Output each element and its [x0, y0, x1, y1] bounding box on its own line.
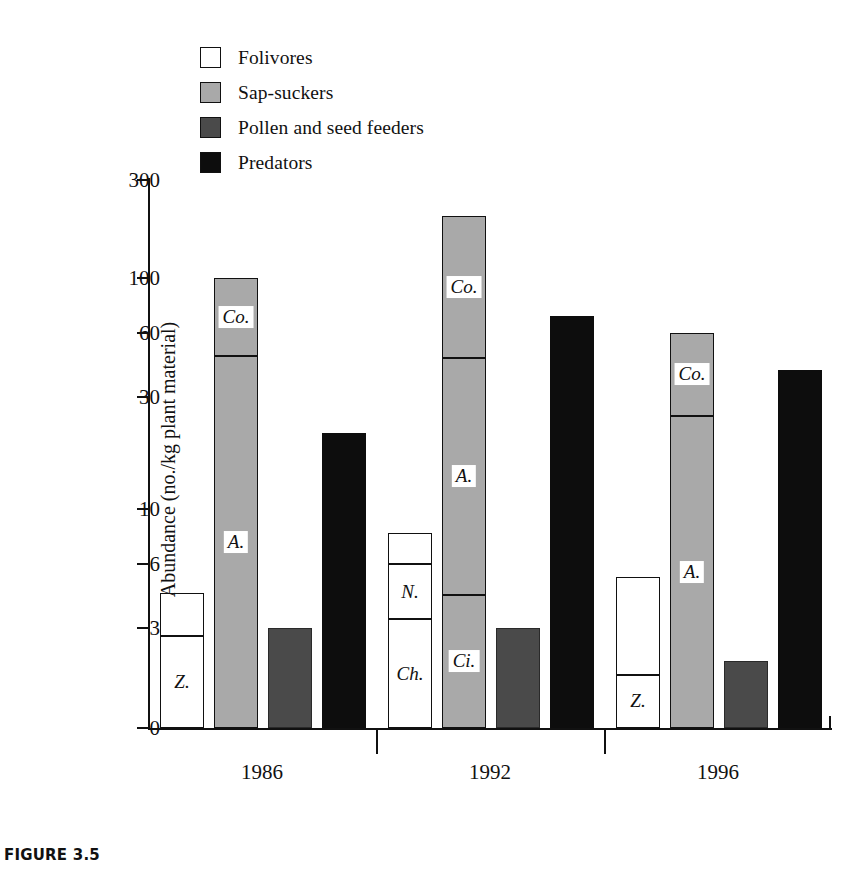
legend-swatch-sap-suckers	[200, 82, 221, 103]
y-tick-label-100: 100	[90, 266, 160, 291]
y-tick-label-60: 60	[90, 321, 160, 346]
bar-segment-label-a: A.	[224, 531, 248, 553]
y-axis-title: Abundance (no./kg plant material)	[157, 140, 180, 780]
legend-swatch-predators	[200, 152, 221, 173]
bar-segment-1996-pollen-seed-feeders-0	[724, 661, 768, 728]
bar-segment-label-ci: Ci.	[449, 650, 480, 672]
bar-1986-sap-suckers: A.Co.	[214, 178, 258, 728]
bar-segment-label-co: Co.	[675, 363, 710, 385]
bar-segment-1992-sap-suckers-1: A.	[442, 358, 486, 595]
bar-segment-label-co: Co.	[219, 306, 254, 328]
bar-1992-predators	[550, 178, 594, 728]
y-tick-label-6: 6	[90, 552, 160, 577]
legend-swatch-folivores	[200, 47, 221, 68]
bar-segment-1986-sap-suckers-0: A.	[214, 356, 258, 728]
y-tick-label-30: 30	[90, 385, 160, 410]
legend-swatch-pollen-seed-feeders	[200, 117, 221, 138]
x-axis-group-label-1986: 1986	[241, 760, 283, 785]
bar-1996-pollen-seed-feeders	[724, 178, 768, 728]
bar-segment-label-ch: Ch.	[393, 663, 428, 685]
y-tick-label-0: 0	[90, 716, 160, 741]
bar-segment-1986-sap-suckers-1: Co.	[214, 278, 258, 356]
bar-1986-predators	[322, 178, 366, 728]
bar-segment-label-a: A.	[452, 465, 476, 487]
bar-segment-1992-folivores-2	[388, 533, 432, 564]
bar-segment-1986-predators-0	[322, 433, 366, 728]
bar-1996-sap-suckers: A.Co.	[670, 178, 714, 728]
bar-1992-folivores: Ch.N.	[388, 178, 432, 728]
bar-segment-1992-sap-suckers-0: Ci.	[442, 595, 486, 728]
bar-1992-sap-suckers: Ci.A.Co.	[442, 178, 486, 728]
bar-segment-label-co: Co.	[447, 276, 482, 298]
bar-segment-1992-pollen-seed-feeders-0	[496, 628, 540, 728]
x-axis-group-label-1996: 1996	[697, 760, 739, 785]
figure-3-5: Folivores Sap-suckers Pollen and seed fe…	[0, 0, 868, 880]
bar-1992-pollen-seed-feeders	[496, 178, 540, 728]
x-axis-separator-1	[376, 730, 378, 754]
legend-item-folivores: Folivores	[200, 40, 424, 75]
bar-segment-1986-pollen-seed-feeders-0	[268, 628, 312, 728]
legend-label-folivores: Folivores	[238, 47, 313, 69]
x-axis-separator-2	[604, 730, 606, 754]
legend-label-predators: Predators	[238, 152, 313, 174]
bar-1986-pollen-seed-feeders	[268, 178, 312, 728]
y-axis-line	[148, 178, 150, 730]
y-tick-label-300: 300	[90, 168, 160, 193]
bar-segment-1996-predators-0	[778, 370, 822, 728]
x-axis-group-label-1992: 1992	[469, 760, 511, 785]
legend-item-predators: Predators	[200, 145, 424, 180]
legend-item-pollen-seed-feeders: Pollen and seed feeders	[200, 110, 424, 145]
bar-segment-1996-sap-suckers-1: Co.	[670, 333, 714, 416]
bar-segment-1996-sap-suckers-0: A.	[670, 416, 714, 728]
bar-segment-1996-folivores-0: Z.	[616, 675, 660, 728]
bar-1996-folivores: Z.	[616, 178, 660, 728]
bar-segment-label-a: A.	[680, 561, 704, 583]
plot-area: 300100603010630 1986 1992 1996 Z.A.Co.Ch…	[148, 178, 832, 730]
bar-segment-1992-folivores-1: N.	[388, 564, 432, 619]
legend-item-sap-suckers: Sap-suckers	[200, 75, 424, 110]
y-tick-label-10: 10	[90, 497, 160, 522]
legend-label-sap-suckers: Sap-suckers	[238, 82, 333, 104]
bar-segment-1992-folivores-0: Ch.	[388, 619, 432, 728]
bar-1996-predators	[778, 178, 822, 728]
legend-label-pollen-seed-feeders: Pollen and seed feeders	[238, 117, 424, 139]
x-axis-right-cap	[829, 716, 831, 730]
bar-segment-1996-folivores-1	[616, 577, 660, 674]
x-axis-line	[148, 728, 832, 730]
y-tick-label-3: 3	[90, 616, 160, 641]
figure-caption: FIGURE 3.5	[4, 846, 100, 864]
chart-legend: Folivores Sap-suckers Pollen and seed fe…	[200, 40, 424, 180]
bar-segment-1992-sap-suckers-2: Co.	[442, 216, 486, 357]
bar-segment-1992-predators-0	[550, 316, 594, 728]
bar-segment-label-z: Z.	[626, 690, 649, 712]
bar-segment-label-n: N.	[397, 581, 422, 603]
